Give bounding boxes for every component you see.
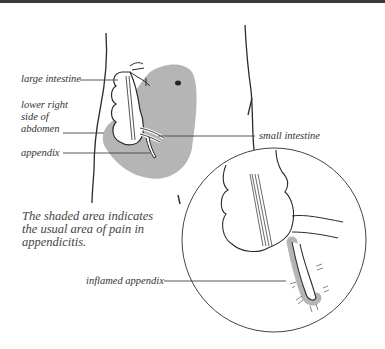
label-small-intestine: small intestine [259, 130, 320, 142]
label-appendix: appendix [21, 147, 60, 159]
large-intestine-small [112, 72, 144, 145]
caption: The shaded area indicates the usual area… [22, 210, 172, 249]
navel-icon [175, 81, 181, 86]
body-outline-left [92, 33, 107, 203]
illustration [0, 0, 385, 349]
label-large-intestine: large intestine [21, 73, 81, 85]
body-outline-right [245, 25, 254, 150]
label-inflamed-appendix: inflamed appendix [86, 275, 164, 287]
label-lower-right-side: lower right side of abdomen [21, 99, 68, 135]
